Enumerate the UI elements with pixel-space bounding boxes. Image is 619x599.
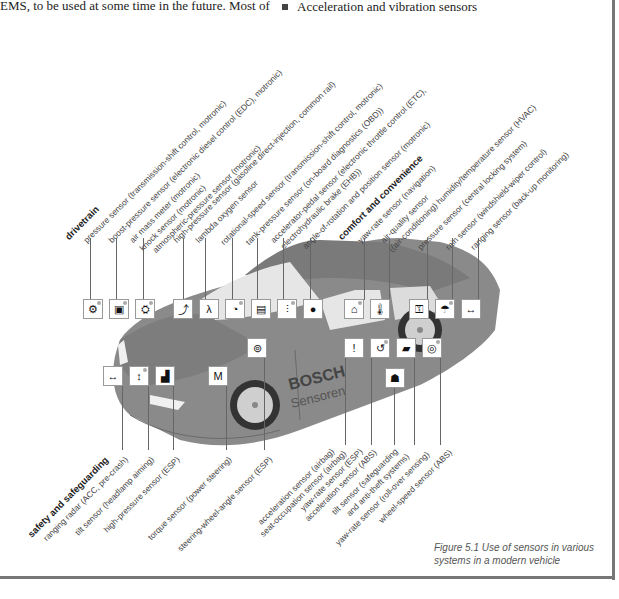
turbo-sensor-icon: ▣ <box>109 299 129 319</box>
leader-line <box>452 238 453 300</box>
leader-line <box>173 385 174 450</box>
leader-line <box>283 238 284 300</box>
torque-icon: M <box>208 366 228 386</box>
lock-car-icon: ⚿ <box>409 299 429 319</box>
leader-line <box>116 238 117 300</box>
leader-line <box>264 355 265 450</box>
airbag-icon: ! <box>344 338 364 358</box>
leader-line <box>345 355 346 445</box>
leader-line <box>90 238 91 300</box>
leader-line <box>414 355 415 445</box>
caption-line-1: Figure 5.1 Use of sensors in various <box>434 541 594 554</box>
leader-line <box>122 385 123 450</box>
leader-line <box>310 238 311 300</box>
high-pressure-icon: ▟ <box>155 366 175 386</box>
ranging-icon: ↔ <box>461 299 481 319</box>
wiper-icon: ☂ <box>435 299 455 319</box>
tank-icon: ▤ <box>251 299 271 319</box>
leader-line <box>143 238 144 300</box>
lambda-car-icon: λ <box>199 299 219 319</box>
wheel-speed-icon: ◎ <box>422 338 442 358</box>
leader-line <box>226 385 227 450</box>
caption-line-2: systems in a modern vehicle <box>434 554 594 567</box>
gear-sensor-icon: ⚙ <box>83 299 103 319</box>
steering-wheel-icon: ⊚ <box>247 338 267 358</box>
leader-line <box>183 238 184 300</box>
air-temperature-icon: 🌡 <box>370 299 390 319</box>
leader-line <box>371 355 372 445</box>
leader-line <box>389 238 390 300</box>
figure-caption: Figure 5.1 Use of sensors in various sys… <box>434 541 594 567</box>
pedal-icon: ⫶ <box>277 299 297 319</box>
speed-gauge-icon: ◔ <box>225 299 245 319</box>
leader-line <box>427 238 428 300</box>
acceleration-icon: ▰ <box>396 338 416 358</box>
leader-line <box>364 238 365 300</box>
leader-line <box>440 355 441 445</box>
engine-sensor-icon: ⛭ <box>135 299 155 319</box>
brake-icon: ● <box>303 299 323 319</box>
leader-line <box>478 238 479 300</box>
leader-line <box>394 385 395 445</box>
radar-icon: ↔ <box>103 366 123 386</box>
yaw-rate-icon: ↺ <box>370 338 390 358</box>
leader-line <box>148 385 149 450</box>
antitheft-icon: ☗ <box>385 368 405 388</box>
leader-line <box>205 238 206 300</box>
leader-line <box>232 238 233 300</box>
injector-sensor-icon: ⤴ <box>173 299 193 319</box>
navigation-icon: ⌂ <box>344 299 364 319</box>
tilt-icon: ↕ <box>129 366 149 386</box>
leader-line <box>257 238 258 300</box>
